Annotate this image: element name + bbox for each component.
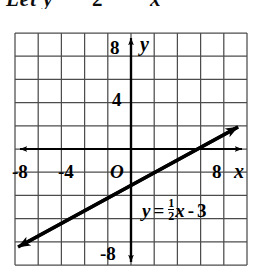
header-text-fragment: Let y 2 x (0, 0, 266, 9)
equation-denominator: 2 (168, 209, 174, 222)
equation-equals: = (153, 200, 164, 222)
header-fragment-c: x (150, 0, 162, 9)
equation-fraction: 1 2 (168, 197, 174, 222)
header-fragment-a: Let y (6, 0, 54, 9)
x-tick-label-neg4: -4 (58, 162, 74, 181)
y-tick-label-8: 8 (110, 38, 120, 57)
equation-variable: x (175, 200, 185, 222)
graph-background (0, 14, 266, 279)
origin-label: O (110, 162, 124, 181)
equation-numerator: 1 (168, 197, 174, 209)
y-tick-label-neg8: -8 (100, 244, 116, 263)
y-axis-label: y (140, 34, 149, 54)
x-axis-label: x (234, 161, 244, 181)
x-tick-label-neg8: -8 (12, 162, 28, 181)
header-fragment-b: 2 (92, 0, 104, 9)
y-tick-label-4: 4 (112, 90, 122, 109)
equation-minus: - (188, 200, 194, 222)
x-tick-label-8: 8 (212, 162, 222, 181)
equation-lhs: y (142, 200, 150, 222)
graph-canvas (0, 14, 266, 279)
coordinate-graph: 8 4 -8 -8 -4 8 O y x y = 1 2 x - 3 (0, 14, 266, 279)
equation-annotation: y = 1 2 x - 3 (142, 198, 207, 223)
equation-constant: 3 (197, 200, 207, 222)
